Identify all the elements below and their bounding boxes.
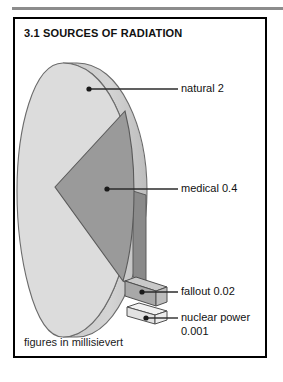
label-nuclear-power: nuclear power 0.001: [181, 310, 250, 338]
label-natural: natural 2: [181, 81, 224, 95]
figure-box: 3.1 SOURCES OF RADIATION: [13, 17, 267, 358]
pie-slice-nuclear-power: [127, 303, 167, 324]
figure-caption: figures in millisievert: [24, 336, 123, 348]
label-medical: medical 0.4: [181, 181, 237, 195]
top-rule-divider: [12, 7, 283, 10]
label-fallout: fallout 0.02: [181, 284, 235, 298]
label-nuclear-power-line2: 0.001: [181, 325, 209, 337]
figure-page: 3.1 SOURCES OF RADIATION: [0, 0, 283, 382]
label-nuclear-power-line1: nuclear power: [181, 311, 250, 323]
